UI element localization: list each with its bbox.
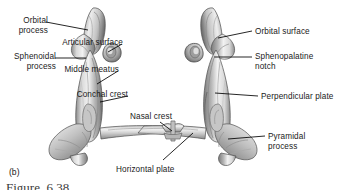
label-middle-meatus: Middle meatus (52, 65, 119, 75)
label-orbital-process: Orbital process (4, 16, 48, 35)
label-horizontal-plate: Horizontal plate (116, 165, 190, 175)
label-nasal-crest: Nasal crest (130, 112, 192, 122)
nasal-crest-structure (162, 121, 184, 141)
right-palatine-bone (138, 8, 257, 166)
label-sphenopalatine-notch: Sphenopalatine notch (255, 52, 347, 71)
panel-letter: (b) (9, 167, 20, 177)
label-conchal-crest: Conchal crest (62, 90, 128, 100)
label-perpendicular-plate: Perpendicular plate (261, 92, 351, 102)
label-articular-surface: Articular surface (47, 38, 123, 48)
label-orbital-surface: Orbital surface (255, 27, 345, 37)
label-sphenoidal-process: Sphenoidal process (0, 52, 56, 71)
figure-caption: Figure 6.38 (6, 180, 69, 190)
label-pyramidal-process: Pyramidal process (268, 132, 338, 151)
left-palatine-bone (49, 8, 168, 166)
palatine-bone-figure: Orbital process Sphenoidal process Artic… (0, 0, 351, 190)
